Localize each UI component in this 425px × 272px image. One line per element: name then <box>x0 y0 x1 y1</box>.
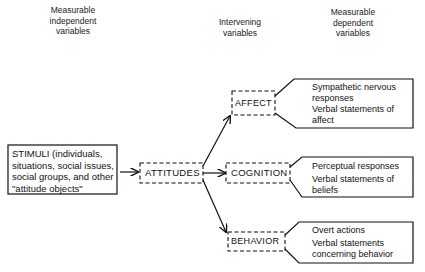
stimuli-line: "attitude objects" <box>12 183 114 195</box>
arrow-attitudes-to-affect <box>203 116 230 166</box>
stimuli-line: situations, social issues, <box>12 160 114 172</box>
outcome-line: Verbal statements <box>312 238 393 249</box>
affect-label: AFFECT <box>235 98 272 108</box>
outcome-line: affect <box>312 115 396 126</box>
outcome-line: concerning behavior <box>312 249 393 260</box>
outcome-line: responses <box>312 93 396 104</box>
arrow-attitudes-to-behavior <box>203 180 226 232</box>
attitudes-label: ATTITUDES <box>145 167 200 178</box>
cognition-outcomes: Perceptual responses Verbal statements o… <box>312 161 399 196</box>
outcome-line: beliefs <box>312 185 399 196</box>
stimuli-line: social groups, and other <box>12 171 114 183</box>
stimuli-line: STIMULI (individuals, <box>12 148 114 160</box>
outcome-line: Sympathetic nervous <box>312 82 396 93</box>
affect-outcomes: Sympathetic nervous responses Verbal sta… <box>312 82 396 126</box>
outcome-line: Verbal statements of <box>312 174 399 185</box>
outcome-line: Verbal statements of <box>312 104 396 115</box>
outcome-line: Overt actions <box>312 225 393 236</box>
stimuli-label: STIMULI (individuals, situations, social… <box>12 148 114 194</box>
behavior-outcomes: Overt actions Verbal statements concerni… <box>312 225 393 260</box>
behavior-label: BEHAVIOR <box>231 236 279 246</box>
cognition-label: COGNITION <box>231 167 288 178</box>
outcome-line: Perceptual responses <box>312 161 399 172</box>
